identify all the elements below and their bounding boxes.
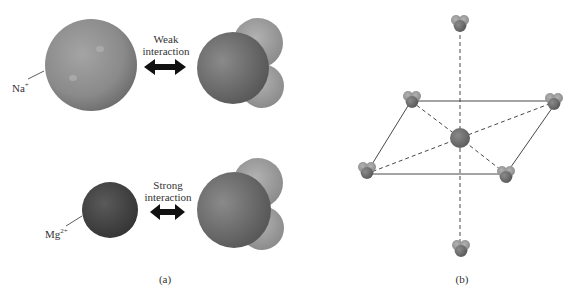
central-metal-ion xyxy=(450,128,470,148)
mg-leader-line xyxy=(66,216,82,226)
diagram-canvas xyxy=(0,0,577,290)
mg-ion-sphere xyxy=(82,182,138,238)
weak-interaction-arrow xyxy=(144,59,186,75)
weak-interaction-label: Weak interaction xyxy=(140,33,192,57)
na-ion-label: Na+ xyxy=(12,79,29,94)
water-ligand-back-right xyxy=(545,93,563,110)
water-ligand-front-left xyxy=(358,162,376,179)
caption-b: (b) xyxy=(447,273,477,285)
water-molecule-bottom xyxy=(197,158,284,250)
na-leader-line xyxy=(28,71,44,79)
na-ion-sphere xyxy=(45,19,137,111)
caption-a: (a) xyxy=(150,273,180,285)
strong-interaction-arrow xyxy=(150,204,185,220)
mg-ion-label: Mg2+ xyxy=(45,225,68,240)
water-ligand-back-left xyxy=(403,91,421,108)
water-molecule-top xyxy=(197,18,284,108)
water-ligand-top xyxy=(451,15,469,32)
water-ligand-bottom xyxy=(452,240,470,257)
water-ligand-front-right xyxy=(497,166,515,183)
strong-interaction-label: Strong interaction xyxy=(142,179,194,203)
